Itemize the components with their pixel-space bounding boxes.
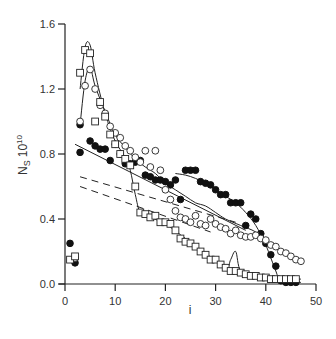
filled-circle-marker xyxy=(107,157,114,164)
filled-circle-marker xyxy=(242,222,249,229)
open-circle-marker xyxy=(107,123,114,130)
open-square-marker xyxy=(172,227,179,234)
x-tick-label: 30 xyxy=(209,295,221,307)
open-square-marker xyxy=(127,162,134,169)
filled-circle-marker xyxy=(102,146,109,153)
filled-circle-marker xyxy=(177,196,184,203)
filled-circle-marker xyxy=(172,177,179,184)
y-tick-label: 1.2 xyxy=(40,83,55,95)
open-square-marker xyxy=(102,113,109,120)
open-square-marker xyxy=(77,69,84,76)
y-tick-label: 1.6 xyxy=(40,18,55,30)
filled-circle-marker xyxy=(192,167,199,174)
open-circles-smooth-curve xyxy=(80,68,301,261)
x-tick-label: 0 xyxy=(62,295,68,307)
y-axis-label: NS1010 xyxy=(15,134,32,174)
filled-circle-marker xyxy=(252,216,259,223)
chart-canvas: 0.00.40.81.21.601020304050 i NS1010 xyxy=(0,0,336,339)
open-circle-marker xyxy=(187,219,194,226)
open-circle-marker xyxy=(82,82,89,89)
open-square-marker xyxy=(87,50,94,57)
open-circle-marker xyxy=(167,196,174,203)
open-circle-marker xyxy=(147,164,154,171)
filled-circle-marker xyxy=(222,191,229,198)
open-square-marker xyxy=(152,212,159,219)
x-axis-label: i xyxy=(189,303,192,317)
x-tick-label: 10 xyxy=(109,295,121,307)
open-square-marker xyxy=(72,253,79,260)
open-square-marker xyxy=(122,155,129,162)
open-circle-marker xyxy=(92,86,99,93)
open-circle-marker xyxy=(137,159,144,166)
open-square-marker xyxy=(92,118,99,125)
y-tick-label: 0.8 xyxy=(40,148,55,160)
svg-text:NS1010: NS1010 xyxy=(15,134,32,174)
open-circle-marker xyxy=(117,134,124,141)
x-tick-label: 20 xyxy=(159,295,171,307)
y-axis-label-mult: 10 xyxy=(16,144,30,158)
open-circle-marker xyxy=(172,207,179,214)
y-axis-label-sub: S xyxy=(22,160,32,166)
open-circle-marker xyxy=(152,147,159,154)
filled-circle-marker xyxy=(237,199,244,206)
open-circle-marker xyxy=(298,258,305,265)
filled-circle-marker xyxy=(77,149,84,156)
y-tick-label: 0.4 xyxy=(40,213,55,225)
open-circle-marker xyxy=(142,147,149,154)
open-circle-marker xyxy=(157,167,164,174)
open-circle-marker xyxy=(77,118,84,125)
axes: 0.00.40.81.21.601020304050 xyxy=(40,18,322,307)
data-points xyxy=(67,47,305,286)
open-square-marker xyxy=(107,131,114,138)
y-axis-label-main: N xyxy=(16,166,30,175)
open-square-marker xyxy=(132,183,139,190)
filled-circle-marker xyxy=(67,240,74,247)
open-circle-marker xyxy=(87,66,94,73)
filled-circle-marker xyxy=(268,251,275,258)
open-square-marker xyxy=(167,220,174,227)
open-circle-marker xyxy=(162,186,169,193)
open-circle-marker xyxy=(192,212,199,219)
open-square-marker xyxy=(97,99,104,106)
open-circle-marker xyxy=(202,222,209,229)
filled-circle-marker xyxy=(273,263,280,270)
open-circle-marker xyxy=(127,147,134,154)
open-square-marker xyxy=(293,276,300,283)
x-tick-label: 40 xyxy=(260,295,272,307)
y-tick-label: 0.0 xyxy=(40,278,55,290)
open-square-marker xyxy=(112,141,119,148)
x-tick-label: 50 xyxy=(310,295,322,307)
y-axis-label-exp: 10 xyxy=(15,134,24,143)
